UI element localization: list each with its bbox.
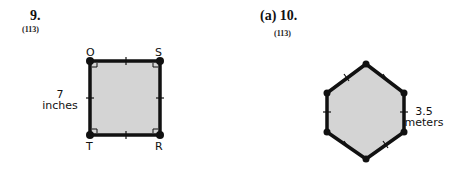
vertex-label-o: O — [86, 46, 95, 59]
square-figure: O S R T 7 inches — [42, 46, 164, 153]
vertex-label-s: S — [155, 46, 162, 59]
hexagon-shape — [327, 64, 404, 159]
side-length-unit: meters — [405, 116, 444, 129]
vertex-label-r: R — [155, 140, 163, 153]
figures-canvas: O S R T 7 inches 3.5 meters — [0, 0, 461, 172]
side-length-unit: inches — [42, 99, 78, 112]
hexagon-figure: 3.5 meters — [323, 61, 444, 163]
square-shape — [90, 61, 160, 135]
vertex-label-t: T — [85, 140, 93, 153]
